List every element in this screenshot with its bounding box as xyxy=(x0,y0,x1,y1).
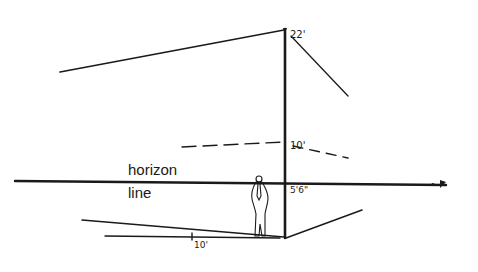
height-10ft-label: 10' xyxy=(290,140,305,151)
top-right-receding-line xyxy=(291,36,348,96)
horizon-label: horizon xyxy=(128,161,177,178)
standing-person-figure xyxy=(252,176,268,236)
eye-height-label: 5'6" xyxy=(290,185,308,195)
horizon-line xyxy=(15,180,446,188)
ground-left-receding-line xyxy=(82,220,284,237)
line-label: line xyxy=(128,184,151,201)
ground-right-receding-line xyxy=(286,210,362,238)
perspective-diagram: horizon line 22' 10' 5'6" 10' xyxy=(0,0,478,272)
height-22ft-label: 22' xyxy=(290,29,305,40)
ground-distance-label: 10' xyxy=(194,240,208,250)
top-left-receding-line xyxy=(60,30,284,72)
dashed-10ft-left-line xyxy=(182,142,284,147)
